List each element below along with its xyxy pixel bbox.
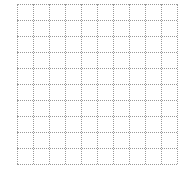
grid-column-line bbox=[65, 4, 66, 164]
dotted-grid bbox=[17, 4, 177, 164]
grid-column-line bbox=[17, 4, 18, 164]
grid-column-line bbox=[97, 4, 98, 164]
grid-column-line bbox=[49, 4, 50, 164]
grid-column-line bbox=[81, 4, 82, 164]
grid-column-line bbox=[113, 4, 114, 164]
grid-column-line bbox=[177, 4, 178, 164]
grid-column-line bbox=[129, 4, 130, 164]
grid-column-line bbox=[145, 4, 146, 164]
grid-column-line bbox=[161, 4, 162, 164]
grid-column-line bbox=[33, 4, 34, 164]
grid-row-line bbox=[17, 164, 177, 165]
